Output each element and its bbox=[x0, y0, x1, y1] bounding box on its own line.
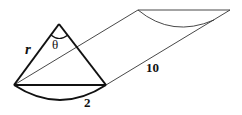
sector-prism-diagram: r θ 2 10 bbox=[0, 0, 242, 115]
radius-label: r bbox=[25, 41, 31, 57]
sector-radius-left bbox=[14, 24, 59, 85]
angle-label: θ bbox=[52, 37, 58, 52]
arc-length-label: 2 bbox=[84, 95, 91, 110]
diagram-canvas: r θ 2 10 bbox=[0, 0, 242, 115]
length-label: 10 bbox=[146, 60, 159, 75]
sector-arc bbox=[14, 85, 106, 100]
far-arc bbox=[138, 10, 214, 27]
